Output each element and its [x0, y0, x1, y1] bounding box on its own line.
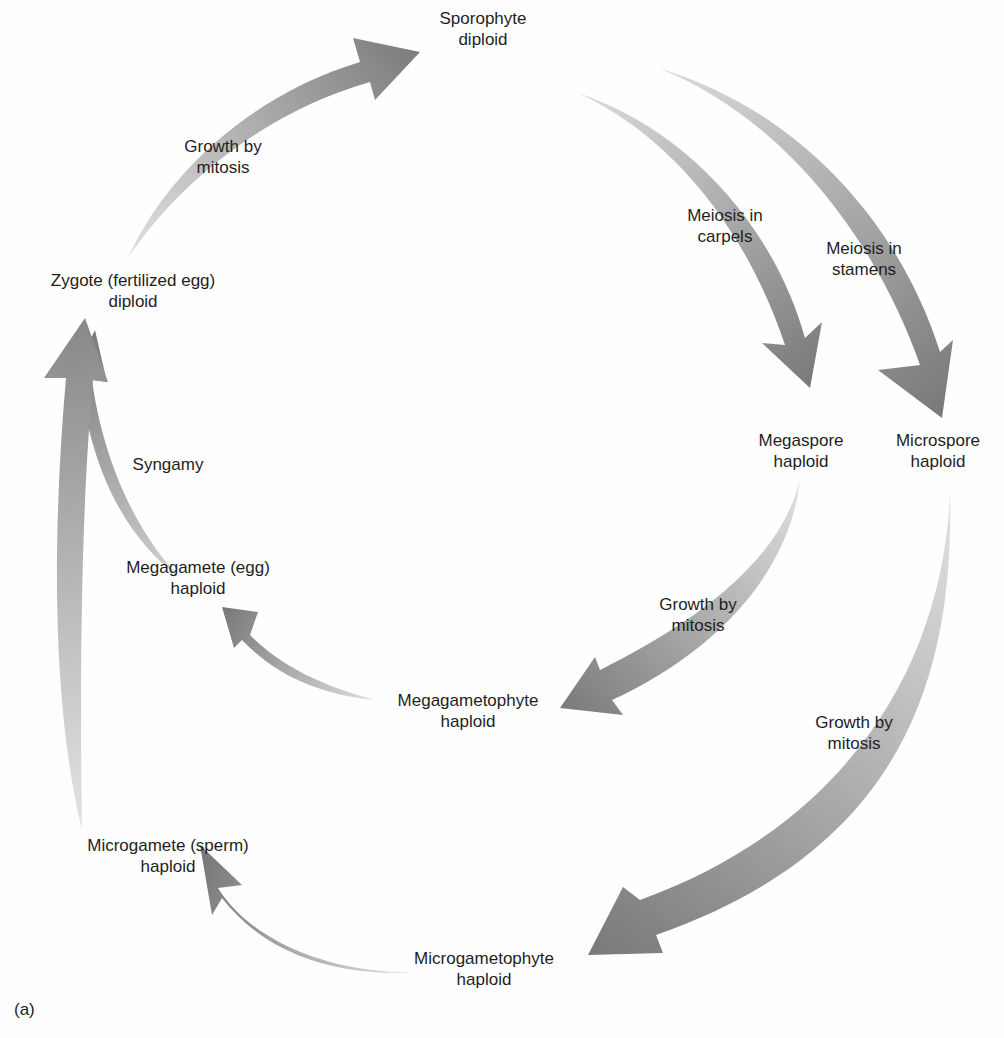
node-ploidy: haploid [758, 451, 843, 472]
edge-label-growth-mitosis-megagametophyte: Growth by mitosis [659, 594, 736, 636]
node-title: Zygote (fertilized egg) [51, 270, 215, 291]
edge-label-line: mitosis [184, 157, 261, 178]
edge-label-growth-mitosis-sporophyte: Growth by mitosis [184, 136, 261, 178]
node-zygote: Zygote (fertilized egg) diploid [51, 270, 215, 312]
edge-label-line: mitosis [659, 615, 736, 636]
arrow-microgamete-to-zygote [44, 318, 108, 830]
edge-label-line: Meiosis in [687, 205, 763, 226]
node-title: Sporophyte [440, 8, 527, 29]
node-ploidy: diploid [440, 29, 527, 50]
node-title: Megaspore [758, 430, 843, 451]
edge-label-line: Meiosis in [826, 238, 902, 259]
node-title: Megagamete (egg) [126, 557, 270, 578]
edge-label-growth-mitosis-microgametophyte: Growth by mitosis [815, 712, 892, 754]
node-title: Microspore [896, 430, 980, 451]
arrow-zygote-to-sporophyte [128, 38, 420, 258]
node-title: Microgamete (sperm) [87, 835, 249, 856]
edge-label-line: stamens [826, 259, 902, 280]
node-sporophyte: Sporophyte diploid [440, 8, 527, 50]
node-ploidy: haploid [414, 969, 554, 990]
edge-label-meiosis-carpels: Meiosis in carpels [687, 205, 763, 247]
plant-life-cycle-diagram: Sporophyte diploid Megaspore haploid Mic… [0, 0, 1004, 1038]
edge-label-line: Growth by [184, 136, 261, 157]
node-title: Megagametophyte [398, 690, 539, 711]
node-ploidy: haploid [398, 711, 539, 732]
node-ploidy: haploid [126, 578, 270, 599]
edge-label-line: Growth by [815, 712, 892, 733]
node-microgamete: Microgamete (sperm) haploid [87, 835, 249, 877]
node-microgametophyte: Microgametophyte haploid [414, 948, 554, 990]
node-title: Microgametophyte [414, 948, 554, 969]
edge-label-line: Syngamy [133, 454, 204, 475]
edge-label-line: carpels [687, 226, 763, 247]
edge-label-line: Growth by [659, 594, 736, 615]
node-megaspore: Megaspore haploid [758, 430, 843, 472]
node-ploidy: diploid [51, 291, 215, 312]
arrows-layer [0, 0, 1004, 1038]
node-megagamete: Megagamete (egg) haploid [126, 557, 270, 599]
node-megagametophyte: Megagametophyte haploid [398, 690, 539, 732]
node-ploidy: haploid [896, 451, 980, 472]
edge-label-line: mitosis [815, 733, 892, 754]
node-microspore: Microspore haploid [896, 430, 980, 472]
node-ploidy: haploid [87, 856, 249, 877]
edge-label-syngamy: Syngamy [133, 454, 204, 475]
edge-label-meiosis-stamens: Meiosis in stamens [826, 238, 902, 280]
panel-label: (a) [14, 1000, 35, 1020]
arrow-megagametophyte-to-megagamete [222, 607, 375, 700]
